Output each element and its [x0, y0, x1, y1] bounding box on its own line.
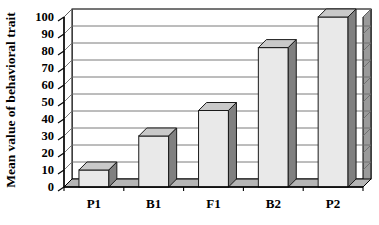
- y-tick-mark: [58, 153, 64, 157]
- y-tick-mark: [58, 85, 64, 89]
- y-tick-mark: [58, 17, 64, 21]
- y-tick-mark: [58, 187, 64, 191]
- bar-side-face: [288, 40, 296, 187]
- y-tick-mark: [58, 34, 64, 38]
- y-tick-mark: [58, 136, 64, 140]
- bar: [79, 162, 117, 187]
- bar-front-face: [199, 111, 229, 188]
- plot-area: [0, 0, 379, 225]
- bar: [139, 128, 177, 187]
- bar-side-face: [169, 128, 177, 187]
- bar-side-face: [228, 103, 236, 188]
- bar-front-face: [139, 136, 169, 187]
- bar: [258, 40, 296, 187]
- y-tick-mark: [58, 119, 64, 123]
- y-tick-mark: [58, 68, 64, 72]
- y-tick-mark: [58, 102, 64, 106]
- bar-side-face: [348, 9, 356, 187]
- y-tick-mark: [58, 51, 64, 55]
- bar: [199, 103, 237, 188]
- bar: [318, 9, 356, 187]
- bar-front-face: [258, 48, 288, 187]
- bar-front-face: [79, 170, 109, 187]
- bar-front-face: [318, 17, 348, 187]
- y-tick-mark: [58, 170, 64, 174]
- bar-chart: Mean value of behavioral trait 010203040…: [0, 0, 379, 225]
